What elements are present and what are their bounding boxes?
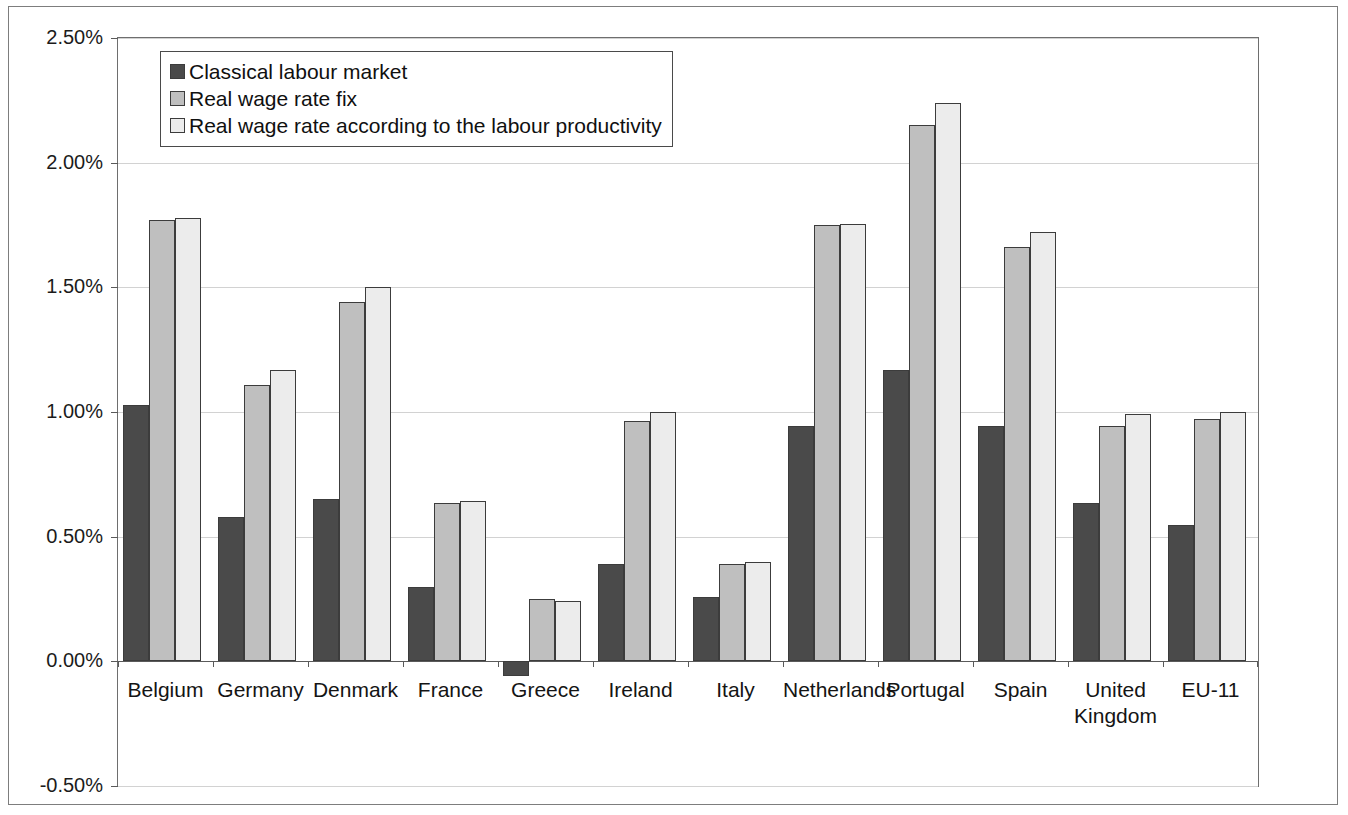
bar bbox=[244, 385, 270, 662]
legend-swatch-real-wage-rate-fix bbox=[170, 91, 185, 106]
legend-label-real-wage-rate-fix: Real wage rate fix bbox=[189, 87, 357, 111]
legend-label-real-wage-rate-productivity: Real wage rate according to the labour p… bbox=[189, 114, 662, 138]
x-tick-mark bbox=[878, 661, 879, 667]
x-axis-category-label: Spain bbox=[973, 677, 1068, 703]
bar bbox=[814, 225, 840, 661]
y-axis-tick-label: 1.00% bbox=[13, 400, 103, 423]
x-tick-mark bbox=[783, 661, 784, 667]
y-tick-mark bbox=[111, 38, 118, 39]
bar bbox=[218, 517, 244, 662]
x-axis-category-label: Ireland bbox=[593, 677, 688, 703]
legend-item-2: Real wage rate according to the labour p… bbox=[170, 112, 662, 139]
bar bbox=[598, 564, 624, 661]
x-tick-mark bbox=[688, 661, 689, 667]
legend-label-classical-labour-market: Classical labour market bbox=[189, 60, 407, 84]
legend-item-0: Classical labour market bbox=[170, 58, 662, 85]
bar bbox=[365, 287, 391, 661]
y-axis-tick-label: -0.50% bbox=[13, 774, 103, 797]
bar bbox=[1004, 247, 1030, 661]
x-axis-category-label: Germany bbox=[213, 677, 308, 703]
bar bbox=[339, 302, 365, 661]
x-tick-mark bbox=[308, 661, 309, 667]
bar bbox=[503, 661, 529, 676]
bar bbox=[313, 499, 339, 661]
gridline-150 bbox=[118, 287, 1258, 288]
x-tick-mark bbox=[973, 661, 974, 667]
y-tick-mark bbox=[111, 287, 118, 288]
bar bbox=[529, 599, 555, 661]
plot-area: BelgiumGermanyDenmarkFranceGreeceIreland… bbox=[118, 38, 1258, 786]
figure-frame: BelgiumGermanyDenmarkFranceGreeceIreland… bbox=[8, 6, 1338, 805]
gridline--050 bbox=[118, 786, 1258, 787]
bar bbox=[1099, 426, 1125, 662]
x-axis-category-label: Portugal bbox=[878, 677, 973, 703]
y-axis-tick-label: 2.50% bbox=[13, 26, 103, 49]
bar bbox=[434, 503, 460, 661]
bar bbox=[978, 426, 1004, 662]
y-tick-mark bbox=[111, 412, 118, 413]
x-tick-mark bbox=[1068, 661, 1069, 667]
chart-legend: Classical labour market Real wage rate f… bbox=[160, 51, 673, 147]
gridline-250 bbox=[118, 38, 1258, 39]
x-axis-category-label: EU-11 bbox=[1163, 677, 1258, 703]
bar bbox=[788, 426, 814, 662]
x-tick-mark bbox=[213, 661, 214, 667]
y-tick-mark bbox=[111, 537, 118, 538]
legend-swatch-real-wage-rate-productivity bbox=[170, 118, 185, 133]
x-tick-mark bbox=[403, 661, 404, 667]
bar bbox=[408, 587, 434, 662]
bar bbox=[149, 220, 175, 661]
x-axis-category-label: Italy bbox=[688, 677, 783, 703]
gridline-200 bbox=[118, 163, 1258, 164]
bar bbox=[624, 421, 650, 662]
x-axis-category-label: Belgium bbox=[118, 677, 213, 703]
y-tick-mark bbox=[111, 661, 118, 662]
bar bbox=[719, 564, 745, 661]
legend-swatch-classical-labour-market bbox=[170, 64, 185, 79]
bar bbox=[555, 601, 581, 661]
x-tick-mark bbox=[118, 661, 119, 667]
y-tick-mark bbox=[111, 163, 118, 164]
x-axis-category-label: Greece bbox=[498, 677, 593, 703]
bar bbox=[1220, 412, 1246, 661]
y-axis-tick-label: 1.50% bbox=[13, 275, 103, 298]
bar bbox=[883, 370, 909, 662]
x-tick-mark bbox=[498, 661, 499, 667]
bar bbox=[1073, 503, 1099, 661]
bar bbox=[745, 562, 771, 662]
x-tick-mark bbox=[593, 661, 594, 667]
bar bbox=[935, 103, 961, 662]
bar bbox=[650, 412, 676, 661]
x-axis-category-label: Netherlands bbox=[783, 677, 878, 703]
y-axis-tick-label: 0.50% bbox=[13, 524, 103, 547]
x-tick-mark bbox=[1257, 661, 1258, 667]
bar bbox=[1194, 419, 1220, 661]
bar bbox=[909, 125, 935, 661]
x-tick-mark bbox=[1163, 661, 1164, 667]
bar bbox=[123, 405, 149, 662]
x-axis-category-label: United Kingdom bbox=[1068, 677, 1163, 729]
bar bbox=[693, 597, 719, 662]
y-axis-tick-label: 0.00% bbox=[13, 649, 103, 672]
bar bbox=[460, 501, 486, 662]
x-axis-category-label: France bbox=[403, 677, 498, 703]
bar bbox=[1030, 232, 1056, 661]
y-axis-tick-label: 2.00% bbox=[13, 150, 103, 173]
legend-item-1: Real wage rate fix bbox=[170, 85, 662, 112]
bar bbox=[1125, 414, 1151, 661]
bar bbox=[1168, 525, 1194, 661]
y-tick-mark bbox=[111, 786, 118, 787]
bar bbox=[270, 370, 296, 662]
chart-plot-frame: BelgiumGermanyDenmarkFranceGreeceIreland… bbox=[117, 37, 1259, 787]
x-axis-category-label: Denmark bbox=[308, 677, 403, 703]
bar bbox=[175, 218, 201, 662]
bar bbox=[840, 224, 866, 662]
